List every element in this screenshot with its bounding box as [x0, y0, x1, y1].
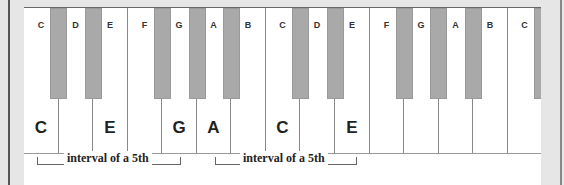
black-key-d-sharp-2: [327, 8, 344, 99]
highlight-label: C: [24, 118, 58, 138]
black-key-d-sharp-1: [85, 8, 102, 99]
black-key-a-sharp-2: [465, 8, 482, 99]
frame-right-margin: [541, 0, 560, 185]
highlight-label: A: [197, 118, 230, 138]
highlight-label: C: [266, 118, 299, 138]
black-key-c-sharp-3: [534, 8, 541, 99]
black-key-g-sharp-1: [189, 8, 206, 99]
highlight-label: E: [93, 118, 127, 138]
black-key-c-sharp-2: [292, 8, 309, 99]
interval-label-2: interval of a 5th: [240, 151, 328, 166]
black-key-g-sharp-2: [430, 8, 447, 99]
frame-right-edge: [560, 0, 562, 185]
black-key-a-sharp-1: [223, 8, 240, 99]
black-key-f-sharp-2: [396, 8, 413, 99]
black-key-c-sharp-1: [50, 8, 67, 99]
black-key-f-sharp-1: [154, 8, 171, 99]
highlight-label: G: [162, 118, 196, 138]
piano-keyboard: C C D E E F G G A A B C C D E E F G: [24, 7, 541, 154]
interval-label-1: interval of a 5th: [64, 151, 152, 166]
frame-left-edge: [8, 0, 10, 185]
highlight-label: E: [335, 118, 369, 138]
